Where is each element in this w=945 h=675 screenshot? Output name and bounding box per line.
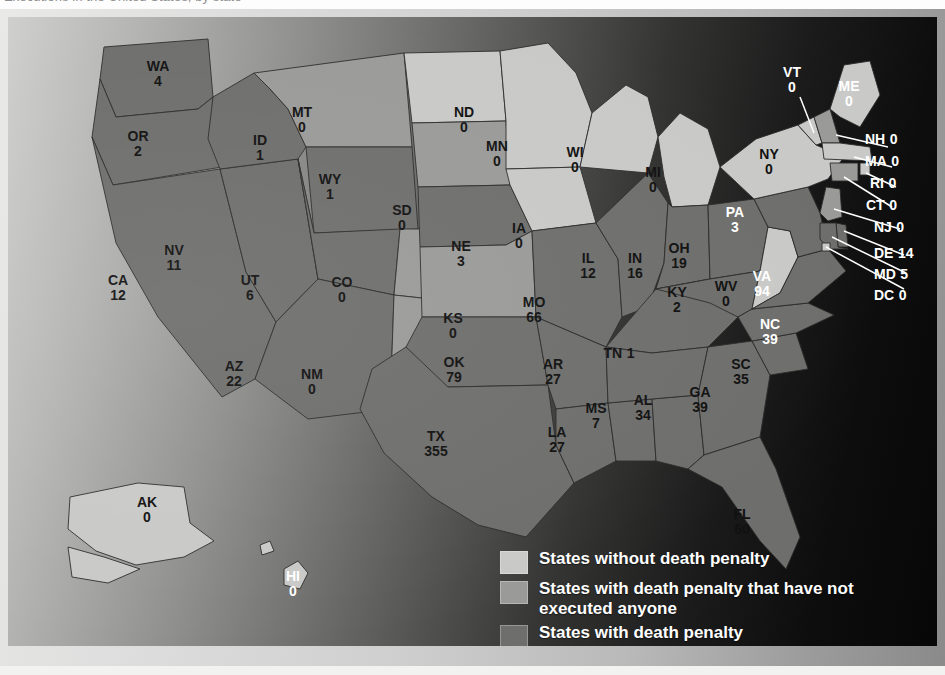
legend-swatch-no-death-penalty <box>500 551 528 574</box>
legend-swatch-death-penalty <box>500 625 528 646</box>
leader-line-DE <box>844 231 904 255</box>
legend-item-no-death-penalty: States without death penalty <box>500 549 920 574</box>
state-shape-AL <box>652 395 704 469</box>
state-shape-NJ <box>820 187 842 221</box>
state-shape-WA <box>100 39 213 117</box>
figure-title-text: Executions in the United States, by stat… <box>4 0 242 4</box>
legend-label-death-penalty-no-executions: States with death penalty that have not … <box>539 579 859 618</box>
legend-item-death-penalty-no-executions: States with death penalty that have not … <box>500 579 920 618</box>
state-shape-RI <box>860 163 870 175</box>
figure-title-clipped: Executions in the United States, by stat… <box>0 0 945 9</box>
state-shape-WY <box>306 147 418 233</box>
state-shape-MN <box>500 43 592 169</box>
leader-line-RI <box>866 173 896 187</box>
state-shape-HI-isl <box>260 541 274 555</box>
legend-item-death-penalty: States with death penalty <box>500 623 920 646</box>
state-shape-TN2 <box>606 347 708 403</box>
legend-label-death-penalty: States with death penalty <box>539 623 743 643</box>
map-figure: Executions in the United States, by stat… <box>0 0 945 675</box>
state-shape-MS <box>608 399 656 461</box>
legend-swatch-death-penalty-no-executions <box>500 581 528 604</box>
map-plate: WA4 OR2 CA12 NV11 ID1 MT0 WY1 UT6 AZ22 C… <box>0 9 945 666</box>
map-legend: States without death penalty States with… <box>500 549 920 646</box>
state-shape-MA <box>822 143 872 161</box>
state-shape-ND <box>404 51 506 123</box>
state-shape-OH <box>708 199 768 279</box>
state-shape-SD <box>412 121 510 187</box>
map-canvas: WA4 OR2 CA12 NV11 ID1 MT0 WY1 UT6 AZ22 C… <box>8 17 937 646</box>
state-shape-MI <box>658 113 720 207</box>
state-shape-ME <box>830 61 880 127</box>
state-shape-HI <box>284 561 308 589</box>
state-shape-CT <box>830 163 858 181</box>
legend-label-no-death-penalty: States without death penalty <box>539 549 769 569</box>
state-shape-WI <box>580 85 658 173</box>
